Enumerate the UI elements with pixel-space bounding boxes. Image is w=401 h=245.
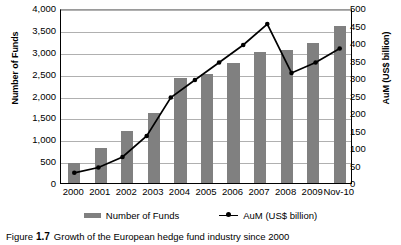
line-marker bbox=[96, 165, 101, 170]
x-axis-labels: 2000200120022003200420052006200720082009… bbox=[60, 187, 352, 201]
legend-line-marker-icon bbox=[219, 211, 238, 220]
caption-label: Figure bbox=[6, 231, 33, 242]
caption-number: 1.7 bbox=[36, 231, 50, 242]
line-marker bbox=[144, 134, 149, 139]
chart-legend: Number of Funds AuM (US$ billion) bbox=[0, 208, 401, 222]
y-axis-left-tick-label: 3,500 bbox=[16, 27, 56, 35]
line-path bbox=[74, 24, 339, 173]
line-marker bbox=[72, 171, 77, 176]
legend-bar-swatch-icon bbox=[84, 213, 101, 218]
line-marker bbox=[120, 155, 125, 160]
legend-item-number-of-funds: Number of Funds bbox=[84, 210, 179, 221]
y-axis-right-tick-label: 0 bbox=[350, 180, 390, 188]
y-axis-left-tick-label: 500 bbox=[16, 158, 56, 166]
plot-area bbox=[60, 9, 352, 184]
legend-label: Number of Funds bbox=[106, 210, 179, 221]
y-axis-right-tick-label: 100 bbox=[350, 145, 390, 153]
x-axis-tick-label: Nov-10 bbox=[322, 187, 355, 197]
y-axis-right-tick-label: 50 bbox=[350, 163, 390, 171]
line-marker bbox=[217, 60, 222, 65]
y-axis-left-tick-label: 4,000 bbox=[16, 5, 56, 13]
y-axis-left-tick-label: 3,000 bbox=[16, 49, 56, 57]
legend-item-aum: AuM (US$ billion) bbox=[219, 210, 317, 221]
line-marker bbox=[169, 95, 174, 100]
line-marker bbox=[313, 60, 318, 65]
line-marker bbox=[265, 22, 270, 27]
y-axis-right-title: AuM (US$ billion) bbox=[381, 20, 391, 116]
y-axis-right-tick-label: 500 bbox=[350, 5, 390, 13]
y-axis-left-tick-label: 2,500 bbox=[16, 71, 56, 79]
figure-caption: Figure1.7Growth of the European hedge fu… bbox=[6, 231, 401, 242]
figure-container: Number of Funds 05001,0001,5002,0002,500… bbox=[0, 0, 401, 245]
line-marker bbox=[337, 46, 342, 51]
line-marker bbox=[241, 43, 246, 48]
line-series bbox=[61, 10, 353, 185]
y-axis-left-tick-label: 1,000 bbox=[16, 136, 56, 144]
line-marker bbox=[289, 71, 294, 76]
y-axis-left-tick-label: 2,000 bbox=[16, 93, 56, 101]
y-axis-left-tick-label: 1,500 bbox=[16, 114, 56, 122]
y-axis-left-tick-label: 0 bbox=[16, 180, 56, 188]
line-marker bbox=[193, 78, 198, 83]
y-axis-right-tick-label: 150 bbox=[350, 128, 390, 136]
legend-label: AuM (US$ billion) bbox=[243, 210, 317, 221]
caption-text: Growth of the European hedge fund indust… bbox=[54, 231, 290, 242]
